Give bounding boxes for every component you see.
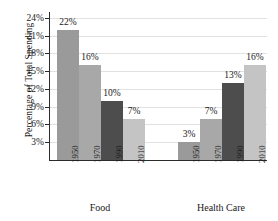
y-tick-mark [45,124,49,125]
bar [57,30,79,160]
y-tick-label: 6% [14,120,44,130]
plot-area: 22%16%10%7%3%7%13%16% [49,12,266,160]
y-tick-mark [45,36,49,37]
y-tick-mark [45,71,49,72]
x-tick-label-year: 2010 [137,145,146,163]
y-tick-label: 15% [14,67,44,77]
y-tick-label: 21% [14,32,44,42]
x-tick-label-year: 1950 [71,145,80,163]
y-tick-label: 12% [14,85,44,95]
y-tick-mark [45,53,49,54]
bar-value-label: 10% [95,89,129,99]
y-tick-mark [45,107,49,108]
y-tick-label: 18% [14,49,44,59]
x-tick-label-year: 1970 [93,145,102,163]
group-label: Health Care [171,203,271,213]
x-tick-label-year: 1990 [115,145,124,163]
y-axis-tick-labels: 3%6%9%12%15%18%21%24% [14,12,44,160]
bar-value-label: 16% [73,53,107,63]
bar-value-label: 16% [238,53,272,63]
gridline [50,36,267,37]
x-tick-label-year: 1950 [192,145,201,163]
y-tick-mark [45,142,49,143]
bar-value-label: 22% [51,18,85,28]
group-label: Food [50,203,150,213]
y-tick-label: 3% [14,138,44,148]
y-tick-label: 9% [14,103,44,113]
x-tick-label-year: 1970 [214,145,223,163]
y-tick-label: 24% [14,14,44,24]
y-tick-mark [45,89,49,90]
bar-chart: Percentage of Total Spending 3%6%9%12%15… [0,0,278,221]
y-tick-mark [45,18,49,19]
x-tick-label-year: 2010 [258,145,267,163]
x-tick-label-year: 1990 [236,145,245,163]
bar-value-label: 7% [117,107,151,117]
